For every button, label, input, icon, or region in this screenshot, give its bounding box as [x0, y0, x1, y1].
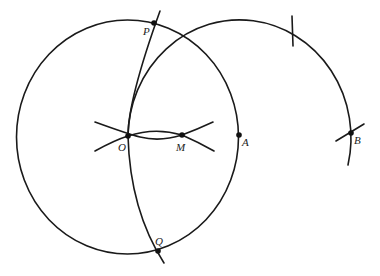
point-M	[179, 132, 185, 138]
point-O	[125, 133, 131, 139]
point-P	[151, 20, 157, 26]
point-B	[348, 130, 354, 136]
label-P: P	[142, 25, 150, 37]
point-A	[236, 132, 242, 138]
label-M: M	[175, 141, 186, 153]
point-Q	[155, 248, 161, 254]
tick-mark	[292, 16, 293, 46]
label-Q: Q	[155, 235, 163, 247]
arc-O-M-upper	[95, 131, 214, 151]
arc-P-O-Q	[128, 11, 164, 263]
label-A: A	[241, 136, 249, 148]
label-O: O	[118, 141, 126, 153]
arc-centered-A	[128, 20, 351, 165]
label-B: B	[354, 134, 361, 146]
geometry-diagram: O M A B P Q	[0, 0, 380, 276]
